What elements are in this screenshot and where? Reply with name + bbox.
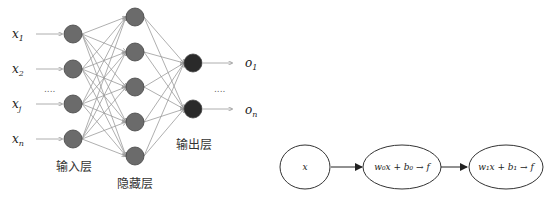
- input-label-2: x2: [12, 62, 24, 78]
- hidden-layer-label: 隐藏层: [117, 177, 153, 191]
- hidden-node: [126, 8, 144, 26]
- hidden-node: [126, 147, 144, 165]
- hidden-node: [126, 43, 144, 61]
- input-ellipsis: ....: [44, 84, 55, 94]
- chain-node-x-label: x: [302, 162, 307, 172]
- edge-hidden-output: [144, 17, 184, 63]
- input-node: [64, 95, 82, 113]
- input-label-j: xj: [12, 97, 22, 113]
- output-label-n: on: [245, 103, 257, 119]
- hidden-node: [126, 78, 144, 96]
- edge-hidden-output: [144, 52, 184, 109]
- edge-hidden-output: [144, 63, 184, 87]
- output-label-1: o1: [245, 56, 257, 72]
- edge-input-hidden: [82, 52, 126, 139]
- edge-hidden-output: [144, 17, 184, 109]
- input-layer-label: 输入层: [56, 159, 92, 174]
- edge-hidden-output: [144, 52, 184, 63]
- input-node: [64, 25, 82, 43]
- diagram-canvas: x1 x2 .... xj xn o1 .... on 输入层 隐藏层 输出层 …: [0, 0, 548, 204]
- edge-hidden-output: [144, 63, 184, 122]
- output-node: [184, 54, 202, 72]
- edge-input-hidden: [82, 17, 126, 104]
- chain-node-layer0-label: w₀x + b₀ → f: [374, 162, 431, 172]
- output-node: [184, 100, 202, 118]
- hidden-node: [126, 113, 144, 131]
- edge-input-hidden: [82, 17, 126, 34]
- chain-node-layer1-label: w₁x + b₁ → f: [478, 162, 535, 172]
- edge-input-hidden: [82, 17, 126, 139]
- edge-hidden-output: [144, 87, 184, 109]
- edge-input-hidden: [82, 139, 126, 156]
- input-node: [64, 130, 82, 148]
- input-label-n: xn: [12, 132, 24, 148]
- edge-input-hidden: [82, 122, 126, 139]
- output-ellipsis: ....: [214, 84, 225, 94]
- output-layer-label: 输出层: [176, 137, 212, 152]
- input-node: [64, 60, 82, 78]
- input-label-1: x1: [12, 27, 24, 43]
